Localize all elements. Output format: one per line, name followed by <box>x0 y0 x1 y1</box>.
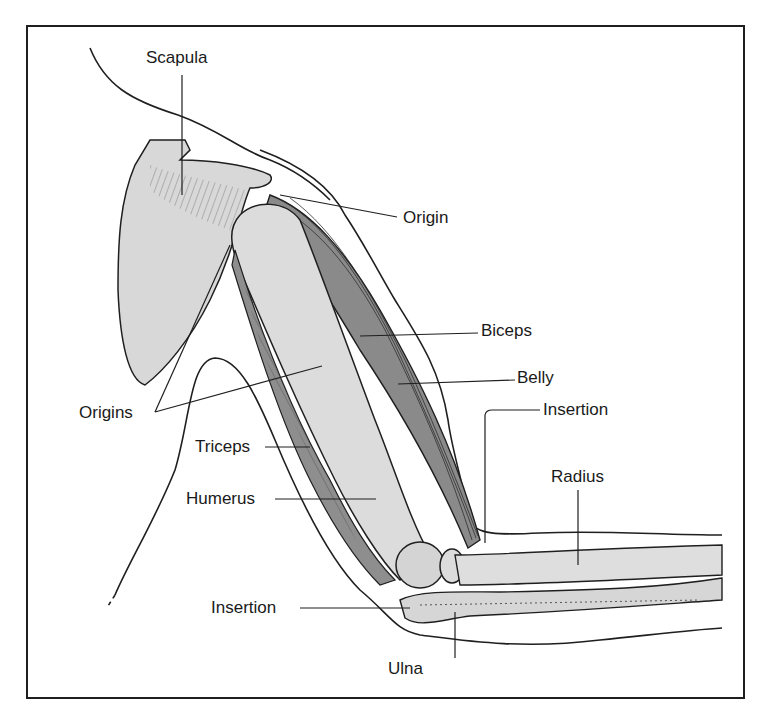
label-origins: Origins <box>79 403 133 423</box>
label-origin: Origin <box>403 208 448 228</box>
label-belly: Belly <box>517 368 554 388</box>
arm-anatomy-illustration <box>0 0 770 726</box>
label-ulna: Ulna <box>388 659 423 679</box>
elbow-joint <box>396 542 464 588</box>
label-triceps: Triceps <box>195 437 250 457</box>
label-radius: Radius <box>551 467 604 487</box>
label-insertion-biceps: Insertion <box>543 400 608 420</box>
label-scapula: Scapula <box>146 48 207 68</box>
radius-bone <box>455 545 722 585</box>
ulna-bone <box>400 578 722 623</box>
label-humerus: Humerus <box>186 489 255 509</box>
label-biceps: Biceps <box>481 321 532 341</box>
label-insertion-triceps: Insertion <box>211 598 276 618</box>
